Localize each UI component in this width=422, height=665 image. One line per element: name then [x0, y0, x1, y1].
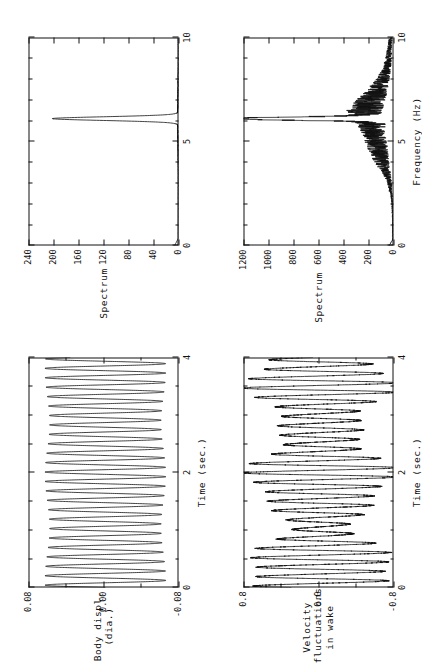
axis-tick [390, 99, 394, 100]
y-axis-title-wake-velocity: Velocity fluctuations in wake [301, 591, 335, 663]
ytick-label: 1200 [239, 249, 248, 269]
axis-tick [28, 141, 34, 142]
axis-tick [28, 161, 32, 162]
axis-tick [393, 37, 394, 43]
ytick-label: 400 [339, 249, 348, 264]
xtick-label: 0 [397, 584, 406, 589]
axis-tick [175, 161, 179, 162]
y-axis-title-line3: in wake [324, 591, 335, 663]
axis-tick [78, 239, 79, 245]
axis-tick [243, 385, 247, 386]
axis-tick [28, 120, 32, 121]
axis-tick [175, 57, 179, 58]
axis-tick [390, 203, 394, 204]
x-axis-title-frequency: Frequency (Hz) [411, 97, 422, 185]
axis-tick [28, 182, 32, 183]
axis-tick [53, 239, 54, 245]
axis-tick [390, 529, 394, 530]
xtick-label: 5 [182, 138, 191, 143]
x-axis-title-time: Time (sec.) [196, 437, 207, 507]
xtick-label: 0 [397, 242, 406, 247]
axis-tick [175, 78, 179, 79]
axis-tick [178, 37, 179, 43]
axis-tick [243, 558, 247, 559]
axis-tick [243, 161, 247, 162]
axis-tick [393, 581, 394, 587]
axis-tick [243, 120, 247, 121]
axis-tick [28, 99, 32, 100]
ytick-label: 0.8 [239, 591, 248, 606]
ytick-label: 800 [289, 249, 298, 264]
axis-tick [175, 385, 179, 386]
axis-tick [28, 385, 32, 386]
panel-wake-velocity-spectrum: 1200 1000 800 600 400 200 0 0 5 10 Spect… [243, 37, 393, 245]
axis-tick [65, 357, 66, 361]
axis-tick [293, 239, 294, 245]
axis-tick [103, 37, 104, 43]
axis-tick [393, 357, 394, 363]
axis-tick [175, 414, 179, 415]
axis-tick [128, 239, 129, 245]
axis-tick [28, 472, 34, 473]
axis-tick [153, 239, 154, 245]
axis-tick [390, 78, 394, 79]
axis-tick [175, 558, 179, 559]
ytick-label: -0.08 [174, 591, 183, 617]
axis-tick [387, 141, 393, 142]
x-axis-title-time: Time (sec.) [411, 437, 422, 507]
axis-tick [318, 239, 319, 245]
xtick-label: 4 [397, 354, 406, 359]
axis-tick [343, 239, 344, 245]
axis-tick [178, 357, 179, 363]
axis-tick [175, 529, 179, 530]
axis-tick [243, 239, 244, 245]
axis-tick [243, 37, 244, 43]
ytick-label: 200 [49, 249, 58, 264]
axis-tick [268, 37, 269, 43]
ytick-label: 0 [174, 249, 183, 254]
axis-tick [178, 239, 179, 245]
y-axis-title-line2: (dia.) [103, 591, 114, 661]
axis-tick [390, 57, 394, 58]
wake-velocity-trace [243, 357, 393, 587]
panel-body-displacement-time: 0.08 0.00 -0.08 0 2 4 Body displ. (dia.)… [28, 357, 178, 587]
axis-tick [368, 239, 369, 245]
axis-tick [243, 78, 247, 79]
axis-tick [243, 357, 244, 363]
axis-tick [103, 581, 104, 587]
axis-tick [243, 141, 249, 142]
ytick-label: 240 [24, 249, 33, 264]
axis-tick [243, 443, 247, 444]
axis-tick [390, 182, 394, 183]
xtick-label: 5 [397, 138, 406, 143]
axis-tick [28, 529, 32, 530]
y-axis-title-spectrum: Spectrum [97, 257, 108, 329]
axis-tick [318, 357, 319, 363]
axis-tick [175, 443, 179, 444]
axis-tick [28, 37, 29, 43]
axis-tick [243, 500, 247, 501]
axis-tick [103, 239, 104, 245]
y-axis-title-line2: fluctuations [312, 591, 323, 663]
axis-tick [318, 37, 319, 43]
axis-tick [140, 584, 141, 588]
axis-tick [293, 37, 294, 43]
ytick-label: 1000 [264, 249, 273, 269]
ytick-label: 200 [364, 249, 373, 264]
wake-velocity-spectrum-trace [243, 37, 393, 245]
xtick-label: 0 [182, 584, 191, 589]
axis-tick [178, 581, 179, 587]
axis-tick [243, 182, 247, 183]
y-axis-title-body-displacement: Body displ. (dia.) [92, 591, 115, 661]
axis-tick [243, 99, 247, 100]
axis-tick [28, 558, 32, 559]
axis-tick [140, 357, 141, 361]
axis-tick [103, 357, 104, 363]
axis-tick [243, 414, 247, 415]
ytick-label: 0 [389, 249, 398, 254]
axis-tick [175, 203, 179, 204]
xtick-label: 0 [182, 242, 191, 247]
axis-tick [175, 182, 179, 183]
body-displacement-spectrum-trace [28, 37, 178, 245]
